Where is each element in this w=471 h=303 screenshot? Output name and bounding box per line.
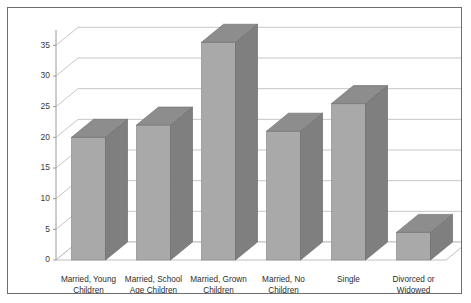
bar-2 (137, 107, 193, 260)
value-axis-tick-labels: 05101520253035 (41, 40, 51, 265)
category-label-3-line-1: Married, Grown (190, 275, 247, 284)
value-axis (53, 30, 56, 260)
ytick-label-15: 15 (41, 162, 51, 172)
gridline-30 (56, 58, 461, 76)
bar-side-face-1 (106, 119, 128, 260)
category-label-1-line-1: Married, Young (61, 275, 117, 284)
ytick-label-0: 0 (45, 254, 50, 264)
bar-side-face-5 (366, 86, 388, 260)
ytick-label-5: 5 (45, 224, 50, 234)
category-label-1-line-2: Children (73, 286, 104, 293)
category-label-4-line-2: Children (268, 286, 299, 293)
bar-chart-3d: 05101520253035 Married, YoungChildrenMar… (8, 8, 461, 293)
category-label-6-line-2: Widowed (397, 286, 431, 293)
ytick-label-20: 20 (41, 132, 51, 142)
bar-4 (267, 113, 323, 260)
gridline-35 (56, 27, 461, 45)
bar-front-face-5 (332, 104, 366, 260)
bar-front-face-3 (202, 42, 236, 260)
gridline-25 (56, 89, 461, 107)
ytick-label-35: 35 (41, 40, 51, 50)
bar-front-face-2 (137, 125, 171, 260)
category-label-3-line-2: Children (203, 286, 234, 293)
ytick-label-10: 10 (41, 193, 51, 203)
category-label-4-line-1: Married, No (262, 275, 305, 284)
bar-side-face-3 (236, 24, 258, 260)
bars-group (72, 24, 453, 260)
bar-front-face-1 (72, 137, 106, 260)
bar-side-face-2 (171, 107, 193, 260)
category-label-2-line-1: Married, School (125, 275, 183, 284)
ytick-label-25: 25 (41, 101, 51, 111)
category-label-6-line-1: Divorced or (393, 275, 435, 284)
bar-side-face-4 (301, 113, 323, 260)
category-label-2-line-2: Age Children (130, 286, 178, 293)
bar-front-face-4 (267, 131, 301, 260)
chart-frame: 05101520253035 Married, YoungChildrenMar… (7, 7, 462, 294)
bar-1 (72, 119, 128, 260)
category-label-5-line-1: Single (337, 275, 360, 284)
bar-front-face-6 (397, 232, 431, 260)
bar-5 (332, 86, 388, 260)
bar-3 (202, 24, 258, 260)
category-axis-labels: Married, YoungChildrenMarried, SchoolAge… (61, 275, 435, 293)
ytick-label-30: 30 (41, 70, 51, 80)
